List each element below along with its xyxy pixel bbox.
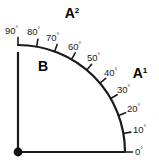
gradation-tick-70	[55, 44, 58, 51]
ticks-group	[18, 38, 133, 153]
gradation-tick-40	[100, 78, 106, 83]
degree-arc	[18, 45, 125, 152]
gradation-tick-80	[37, 39, 38, 46]
gradation-tick-10	[123, 132, 130, 133]
arc-group	[18, 45, 125, 152]
gradation-tick-30	[111, 95, 117, 99]
gradation-label-40: 40°	[104, 67, 118, 78]
origin-group	[14, 148, 23, 157]
gradation-label-20: 20°	[127, 103, 141, 114]
gradation-label-50: 50°	[87, 52, 101, 63]
angle-diagram: 0°10°20°30°40°50°60°70°80°90° A1A2B	[0, 0, 159, 166]
gradation-tick-20	[119, 113, 126, 116]
region-label-A2: A2	[65, 5, 80, 21]
gradation-label-90: 90°	[5, 25, 19, 36]
gradation-label-80: 80°	[27, 26, 41, 37]
diagram-canvas: ....... ... .. 0°10°20°30°40°50°60°70°80…	[0, 0, 159, 166]
gradation-label-0: 0°	[135, 146, 143, 157]
region-labels-group: A1A2B	[38, 5, 148, 81]
gradation-tick-60	[72, 53, 76, 59]
origin-dot	[14, 148, 23, 157]
region-label-A1: A1	[133, 65, 148, 81]
gradation-label-10: 10°	[133, 124, 147, 135]
gradation-tick-50	[87, 64, 92, 70]
gradation-label-70: 70°	[46, 32, 60, 43]
gradation-label-30: 30°	[117, 84, 131, 95]
gradation-label-60: 60°	[68, 41, 82, 52]
region-label-B: B	[38, 58, 48, 74]
